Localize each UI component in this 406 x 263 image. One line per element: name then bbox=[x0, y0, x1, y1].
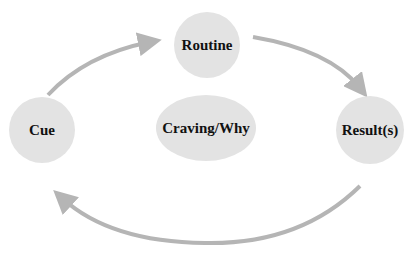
cue-node: Cue bbox=[9, 97, 75, 163]
result-node: Result(s) bbox=[336, 96, 404, 164]
routine-label: Routine bbox=[182, 37, 233, 54]
craving-node: Craving/Why bbox=[156, 95, 256, 161]
cue-label: Cue bbox=[29, 122, 55, 139]
routine-node: Routine bbox=[174, 12, 240, 78]
arrow-routine-to-result bbox=[253, 37, 360, 88]
arrow-cue-to-routine bbox=[48, 42, 150, 95]
result-label: Result(s) bbox=[342, 122, 399, 139]
arrow-result-to-cue bbox=[62, 186, 360, 243]
craving-label: Craving/Why bbox=[162, 120, 250, 137]
